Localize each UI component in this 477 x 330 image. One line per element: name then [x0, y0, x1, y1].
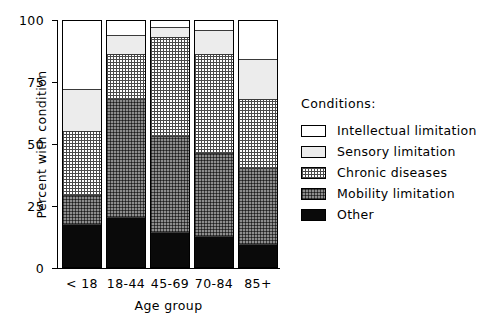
segment-chronic-diseases[interactable]: [239, 100, 277, 169]
segment-mobility-limitation[interactable]: [107, 100, 145, 218]
segment-other[interactable]: [239, 245, 277, 267]
legend-item-chronic-diseases[interactable]: Chronic diseases: [301, 162, 461, 183]
segment-other[interactable]: [63, 225, 101, 267]
y-tick-75: 75: [52, 82, 57, 83]
x-tick-label-4: 85+: [223, 276, 293, 291]
y-axis-line: [57, 20, 58, 269]
y-tick-100: 100: [52, 20, 57, 21]
x-axis-label: Age group: [57, 298, 280, 313]
segment-intellectual-limitation[interactable]: [107, 21, 145, 36]
segment-sensory-limitation[interactable]: [195, 31, 233, 56]
legend-item-sensory-limitation[interactable]: Sensory limitation: [301, 141, 461, 162]
y-tick-label-0: 0: [36, 261, 44, 276]
segment-intellectual-limitation[interactable]: [239, 21, 277, 60]
legend-label: Intellectual limitation: [337, 123, 477, 138]
segment-sensory-limitation[interactable]: [239, 60, 277, 99]
legend-title: Conditions:: [301, 96, 461, 111]
segment-other[interactable]: [107, 218, 145, 267]
y-tick-label-25: 25: [27, 199, 44, 214]
legend: Conditions: Intellectual limitation Sens…: [301, 96, 461, 225]
legend-label: Other: [337, 207, 374, 222]
legend-label: Sensory limitation: [337, 144, 456, 159]
legend-label: Mobility limitation: [337, 186, 455, 201]
dense-gray-grid-swatch-icon: [301, 188, 326, 200]
legend-item-other[interactable]: Other: [301, 204, 461, 225]
black-swatch-icon: [301, 209, 326, 221]
bar-group-3[interactable]: [194, 20, 234, 268]
white-swatch-icon: [301, 125, 326, 137]
segment-chronic-diseases[interactable]: [63, 132, 101, 196]
segment-mobility-limitation[interactable]: [195, 154, 233, 238]
segment-other[interactable]: [151, 233, 189, 267]
segment-other[interactable]: [195, 237, 233, 267]
y-tick-25: 25: [52, 206, 57, 207]
bar-group-4[interactable]: [238, 20, 278, 268]
legend-label: Chronic diseases: [337, 165, 447, 180]
y-tick-label-50: 50: [27, 137, 44, 152]
bar-group-2[interactable]: [150, 20, 190, 268]
segment-mobility-limitation[interactable]: [239, 169, 277, 245]
segment-sensory-limitation[interactable]: [107, 36, 145, 56]
segment-intellectual-limitation[interactable]: [63, 21, 101, 90]
legend-item-intellectual-limitation[interactable]: Intellectual limitation: [301, 120, 461, 141]
fine-grid-swatch-icon: [301, 167, 326, 179]
segment-sensory-limitation[interactable]: [63, 90, 101, 132]
segment-chronic-diseases[interactable]: [151, 38, 189, 136]
y-tick-0: 0: [52, 268, 57, 269]
bar-group-0[interactable]: [62, 20, 102, 268]
segment-mobility-limitation[interactable]: [151, 137, 189, 233]
light-gray-swatch-icon: [301, 146, 326, 158]
segment-chronic-diseases[interactable]: [107, 55, 145, 99]
y-tick-label-100: 100: [19, 13, 44, 28]
segment-chronic-diseases[interactable]: [195, 55, 233, 153]
y-tick-50: 50: [52, 144, 57, 145]
segment-intellectual-limitation[interactable]: [195, 21, 233, 31]
y-tick-label-75: 75: [27, 75, 44, 90]
segment-mobility-limitation[interactable]: [63, 196, 101, 226]
plot-area: 0 25 50 75 100 < 18 18-44 45-69 70-84 85…: [57, 20, 279, 268]
segment-intellectual-limitation[interactable]: [151, 21, 189, 28]
segment-sensory-limitation[interactable]: [151, 28, 189, 38]
legend-item-mobility-limitation[interactable]: Mobility limitation: [301, 183, 461, 204]
x-axis-line: [57, 268, 280, 269]
bar-group-1[interactable]: [106, 20, 146, 268]
